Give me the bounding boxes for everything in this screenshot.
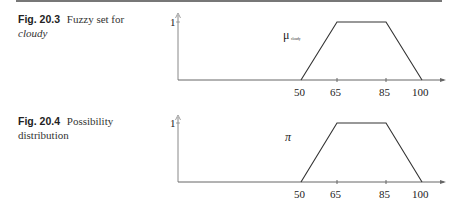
curve-label-pi: π bbox=[285, 130, 292, 144]
x-tick-85: 85 bbox=[379, 86, 391, 98]
x-tick-50: 50 bbox=[294, 188, 306, 200]
curve-label-mu: μ bbox=[283, 28, 289, 42]
x-tick-100: 100 bbox=[412, 188, 429, 200]
possibility-distribution-chart: 1 50 65 85 100 π bbox=[0, 105, 460, 211]
x-tick-100: 100 bbox=[412, 86, 429, 98]
x-tick-65: 65 bbox=[330, 86, 342, 98]
y-tick-1: 1 bbox=[170, 117, 176, 129]
possibility-curve bbox=[301, 123, 422, 182]
membership-curve bbox=[301, 22, 422, 80]
x-tick-50: 50 bbox=[294, 86, 306, 98]
x-tick-65: 65 bbox=[330, 188, 342, 200]
x-axis-arrow-icon bbox=[440, 78, 446, 82]
x-axis-arrow-icon bbox=[440, 180, 446, 184]
y-tick-1: 1 bbox=[170, 16, 176, 28]
x-tick-85: 85 bbox=[379, 188, 391, 200]
curve-subscript: cloudy bbox=[291, 37, 301, 41]
fuzzy-set-chart: 1 50 65 85 100 μ cloudy bbox=[0, 0, 460, 105]
